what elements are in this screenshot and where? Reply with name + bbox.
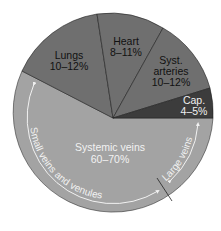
pie-chart: Lungs 10–12% Heart 8–11% Syst. arteries … [0, 0, 221, 231]
value-arteries: 10–12% [152, 76, 191, 88]
value-heart: 8–11% [110, 46, 142, 58]
value-veins: 60–70% [91, 153, 130, 165]
label-veins: Systemic veins [75, 141, 145, 153]
value-lungs: 10–12% [50, 60, 89, 72]
value-cap: 4–5% [181, 105, 208, 117]
